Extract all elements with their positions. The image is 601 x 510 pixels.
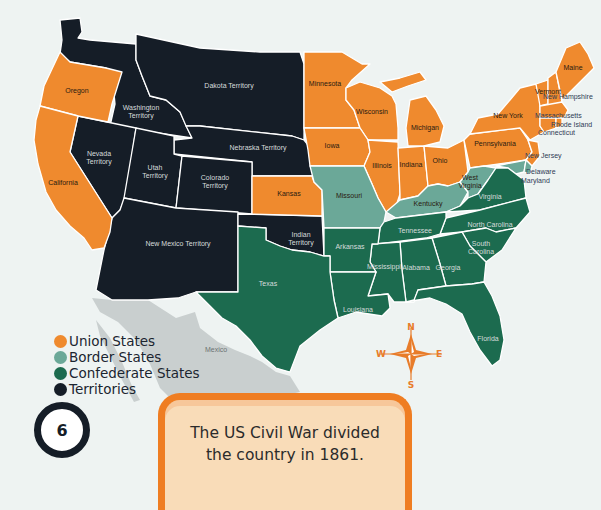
label-south-carolina-2: Carolina <box>468 248 494 255</box>
label-texas: Texas <box>259 280 278 287</box>
label-washington-2: Territory <box>128 112 154 120</box>
label-arkansas: Arkansas <box>335 243 365 250</box>
page-number-badge: 6 <box>34 402 90 458</box>
label-minnesota: Minnesota <box>309 80 341 87</box>
label-nebraska: Nebraska Territory <box>229 144 287 152</box>
label-connecticut: Connecticut <box>538 129 575 136</box>
label-louisiana: Louisiana <box>343 306 373 313</box>
compass-rose-icon: N S E W <box>376 322 442 390</box>
caption-text: The US Civil War divided the country in … <box>165 422 405 466</box>
legend-label: Union States <box>69 333 155 349</box>
caption-line-2: the country in 1861. <box>165 444 405 466</box>
label-iowa: Iowa <box>325 142 340 149</box>
label-nevada-2: Territory <box>86 158 112 166</box>
label-maine: Maine <box>563 64 582 71</box>
label-west-virginia-2: Virginia <box>458 182 481 190</box>
label-new-mexico: New Mexico Territory <box>145 240 211 248</box>
territory-dot-icon <box>54 383 67 396</box>
label-colorado-1: Colorado <box>201 174 230 181</box>
label-tennessee: Tennessee <box>398 227 432 234</box>
border-dot-icon <box>54 351 67 364</box>
map-legend: Union States Border States Confederate S… <box>54 333 200 397</box>
label-new-jersey: New Jersey <box>525 152 562 160</box>
label-california: California <box>48 179 78 186</box>
label-washington-1: Washington <box>123 104 160 112</box>
legend-label: Border States <box>69 349 161 365</box>
label-delaware: Delaware <box>526 168 556 175</box>
label-kentucky: Kentucky <box>414 200 443 208</box>
label-utah-1: Utah <box>148 164 163 171</box>
label-michigan: Michigan <box>411 124 439 132</box>
compass-n: N <box>407 322 415 332</box>
label-mississippi: Mississippi <box>367 263 401 271</box>
label-north-carolina: North Carolina <box>467 221 512 228</box>
label-alabama: Alabama <box>402 264 430 271</box>
legend-item-union: Union States <box>54 333 200 349</box>
label-florida: Florida <box>477 335 499 342</box>
compass-w: W <box>376 349 386 359</box>
region-new-mexico-territory <box>96 198 238 300</box>
legend-item-confederate: Confederate States <box>54 365 200 381</box>
label-new-york: New York <box>493 112 523 119</box>
label-utah-2: Territory <box>142 172 168 180</box>
label-indian-2: Territory <box>288 239 314 247</box>
label-pennsylvania: Pennsylvania <box>474 140 516 148</box>
label-rhode-island: Rhode Island <box>551 121 592 128</box>
compass-e: E <box>436 349 442 359</box>
caption-line-1: The US Civil War divided <box>165 422 405 444</box>
label-ohio: Ohio <box>433 157 448 164</box>
region-maine <box>556 42 594 100</box>
union-dot-icon <box>54 335 67 348</box>
label-wisconsin: Wisconsin <box>356 108 388 115</box>
legend-label: Territories <box>69 381 136 397</box>
label-kansas: Kansas <box>277 190 301 197</box>
label-oregon: Oregon <box>65 87 88 95</box>
label-illinois: Illinois <box>372 162 392 169</box>
label-massachusetts: Massachusetts <box>535 112 582 119</box>
caption-box: The US Civil War divided the country in … <box>158 393 412 510</box>
label-maryland: Maryland <box>521 177 550 185</box>
label-colorado-2: Territory <box>202 182 228 190</box>
confederate-dot-icon <box>54 367 67 380</box>
legend-item-border: Border States <box>54 349 200 365</box>
label-virginia: Virginia <box>478 193 501 201</box>
label-georgia: Georgia <box>436 264 461 272</box>
compass-s: S <box>408 380 414 390</box>
label-new-hampshire: New Hampshire <box>543 93 593 101</box>
legend-label: Confederate States <box>69 365 200 381</box>
label-mexico: Mexico <box>205 346 227 353</box>
label-south-carolina-1: South <box>472 240 490 247</box>
label-nevada-1: Nevada <box>87 150 111 157</box>
label-west-virginia-1: West <box>462 174 478 181</box>
label-indian-1: Indian <box>291 231 310 238</box>
label-missouri: Missouri <box>336 192 363 199</box>
label-dakota: Dakota Territory <box>204 82 254 90</box>
label-indiana: Indiana <box>400 161 423 168</box>
